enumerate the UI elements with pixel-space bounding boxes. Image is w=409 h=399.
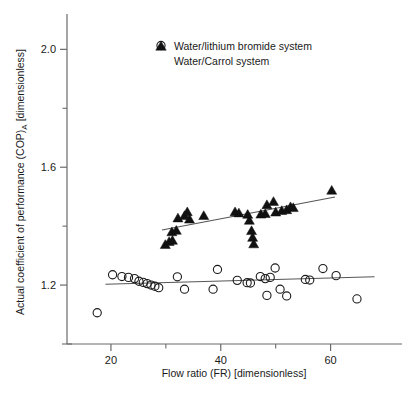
legend-entry-water-lithium-bromide[interactable]: Water/lithium bromide system (157, 40, 312, 52)
x-axis-tick-labels: 204060 (105, 354, 337, 366)
x-axis-title-label: Flow ratio (FR) [dimensionless] (162, 367, 307, 379)
legend: Water/lithium bromide system Water/Carro… (156, 40, 312, 67)
chart-canvas: 1.21.62.0 204060 Flow ratio (FR) [dimens… (0, 0, 409, 399)
data-point-open-circle (180, 285, 188, 293)
y-axis-title-main: Actual coefficient of performance (COP) (14, 130, 26, 315)
data-point-filled-triangle (199, 211, 209, 220)
y-tick-label: 1.2 (41, 279, 56, 291)
data-point-open-circle (266, 273, 274, 281)
data-point-open-circle (93, 309, 101, 317)
data-point-open-circle (271, 264, 279, 272)
y-axis-tick-labels: 1.21.62.0 (41, 43, 56, 291)
legend-label-water-lithium-bromide: Water/lithium bromide system (174, 40, 312, 52)
data-point-filled-triangle (247, 226, 257, 235)
data-point-filled-triangle (182, 207, 192, 216)
data-point-open-circle (353, 295, 361, 303)
data-point-open-circle (108, 271, 116, 279)
data-point-filled-triangle (268, 197, 278, 206)
x-tick-label: 20 (105, 354, 117, 366)
x-axis-title: Flow ratio (FR) [dimensionless] (162, 367, 307, 379)
data-point-open-circle (263, 291, 271, 299)
x-tick-label: 40 (215, 354, 227, 366)
data-point-open-circle (209, 285, 217, 293)
y-axis-title-label: Actual coefficient of performance (COP)A… (14, 49, 29, 315)
legend-label-water-carrol: Water/Carrol system (174, 55, 270, 67)
data-point-open-circle (319, 264, 327, 272)
y-axis-ticks (60, 49, 67, 285)
data-point-open-circle (213, 265, 221, 273)
y-axis-title: Actual coefficient of performance (COP)A… (14, 49, 29, 315)
data-point-open-circle (173, 273, 181, 281)
y-axis-title-tail: [dimensionless] (14, 49, 26, 124)
data-point-open-circle (256, 272, 264, 280)
data-point-open-circle (283, 292, 291, 300)
data-point-open-circle (276, 285, 284, 293)
series-water-carrol (160, 185, 336, 248)
data-point-open-circle (332, 272, 340, 280)
data-point-filled-triangle (327, 185, 337, 194)
scatter-chart-figure: 1.21.62.0 204060 Flow ratio (FR) [dimens… (0, 0, 409, 399)
x-tick-label: 60 (324, 354, 336, 366)
y-tick-label: 1.6 (41, 161, 56, 173)
y-tick-label: 2.0 (41, 43, 56, 55)
x-axis-ticks (62, 344, 331, 351)
series-water-lithium-bromide (93, 264, 361, 317)
